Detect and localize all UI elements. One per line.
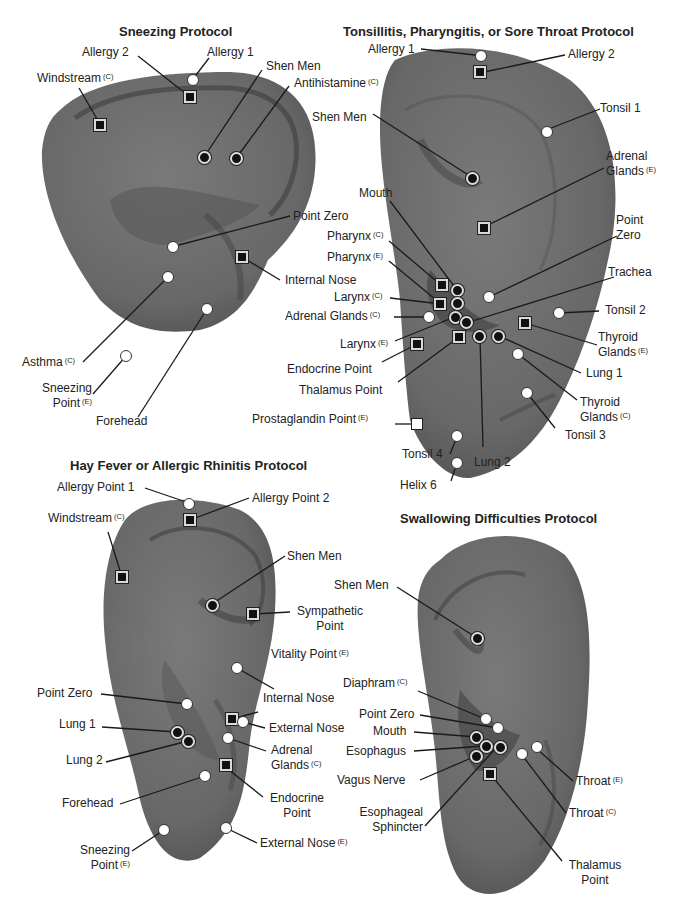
point-antihistamine[interactable]: [230, 152, 243, 165]
point-pharynx-e[interactable]: [451, 297, 464, 310]
point-allergy-1[interactable]: [187, 74, 199, 86]
point-adrenal-glands-c[interactable]: [423, 311, 435, 323]
point-esophagus[interactable]: [480, 740, 493, 753]
label-esophageal-sphincter: EsophagealSphincter: [343, 805, 423, 835]
point-allergy-2[interactable]: [474, 66, 486, 78]
label-prostaglandin-point: Prostaglandin Point(E): [252, 412, 368, 427]
point-thyroid-glands-c[interactable]: [512, 348, 524, 360]
point-lung-2[interactable]: [182, 735, 195, 748]
point-point-zero[interactable]: [181, 698, 193, 710]
label-throat-e: Throat(E): [576, 774, 623, 789]
point-lung-1[interactable]: [492, 330, 505, 343]
label-adrenal-glands-e: AdrenalGlands(E): [606, 149, 656, 179]
label-allergy-point-1: Allergy Point 1: [57, 480, 134, 495]
label-lung-1: Lung 1: [586, 366, 623, 381]
label-mouth: Mouth: [373, 724, 406, 739]
point-tonsil-1[interactable]: [541, 126, 553, 138]
label-forehead: Forehead: [96, 414, 147, 429]
label-asthma: Asthma(C): [22, 355, 75, 370]
point-external-nose[interactable]: [237, 716, 249, 728]
point-endocrine-point[interactable]: [220, 759, 232, 771]
label-shen-men: Shen Men: [312, 110, 367, 125]
point-larynx-c[interactable]: [434, 298, 446, 310]
label-vitality-point: Vitality Point(E): [271, 647, 349, 662]
point-allergy-1[interactable]: [475, 50, 487, 62]
point-vagus-nerve[interactable]: [470, 750, 483, 763]
point-allergy-2[interactable]: [184, 91, 196, 103]
label-forehead: Forehead: [62, 796, 113, 811]
point-windstream[interactable]: [116, 571, 128, 583]
label-allergy-point-2: Allergy Point 2: [252, 491, 329, 506]
label-diaphram: Diaphram(C): [343, 676, 407, 691]
point-thyroid-glands-e[interactable]: [519, 317, 531, 329]
label-antihistamine: Antihistamine(C): [294, 76, 378, 91]
point-windstream[interactable]: [94, 119, 106, 131]
point-vitality-point[interactable]: [231, 662, 243, 674]
label-trachea: Trachea: [608, 265, 652, 280]
label-tonsil-1: Tonsil 1: [600, 101, 641, 116]
label-thyroid-glands-e: ThyroidGlands(E): [598, 330, 648, 360]
label-internal-nose: Internal Nose: [263, 691, 334, 706]
point-forehead[interactable]: [199, 770, 211, 782]
protocol-title-swallowing: Swallowing Difficulties Protocol: [400, 511, 597, 526]
point-point-zero[interactable]: [167, 241, 179, 253]
label-thalamus-point: Thalamus Point: [299, 383, 382, 398]
point-endocrine-point[interactable]: [411, 338, 423, 350]
label-allergy-2: Allergy 2: [82, 45, 129, 60]
point-sympathetic-point[interactable]: [247, 608, 259, 620]
label-helix-6: Helix 6: [400, 478, 437, 493]
point-internal-nose[interactable]: [236, 251, 248, 263]
label-pharynx-e: Pharynx(E): [327, 250, 383, 265]
point-adrenal-glands-e[interactable]: [478, 222, 490, 234]
point-asthma[interactable]: [162, 271, 174, 283]
point-external-nose-e[interactable]: [220, 822, 232, 834]
point-thalamus-point[interactable]: [453, 331, 465, 343]
label-adrenal-glands: AdrenalGlands(C): [271, 743, 321, 773]
point-tonsil-3[interactable]: [521, 387, 533, 399]
label-sneezing-point: SneezingPoint(E): [36, 381, 92, 411]
point-pharynx-c[interactable]: [436, 279, 448, 291]
point-tonsil-2[interactable]: [553, 307, 565, 319]
label-windstream: Windstream(C): [37, 71, 113, 86]
label-thalamus-point: ThalamusPoint: [560, 858, 630, 888]
point-prostaglandin-point[interactable]: [411, 418, 423, 430]
point-allergy-point-1[interactable]: [183, 498, 195, 510]
point-point-zero[interactable]: [492, 722, 504, 734]
label-sympathetic-point: SympatheticPoint: [290, 604, 370, 634]
ear-sneezing: [42, 72, 316, 332]
label-lung-2: Lung 2: [66, 753, 103, 768]
point-shen-men[interactable]: [471, 632, 484, 645]
label-vagus-nerve: Vagus Nerve: [337, 773, 405, 788]
point-shen-men[interactable]: [198, 151, 211, 164]
label-allergy-1: Allergy 1: [368, 42, 415, 57]
label-endocrine-point: Endocrine Point: [287, 362, 372, 377]
point-mouth[interactable]: [451, 284, 464, 297]
label-thyroid-glands-c: ThyroidGlands(C): [580, 395, 630, 425]
point-throat-c[interactable]: [516, 748, 528, 760]
point-shen-men[interactable]: [206, 599, 219, 612]
label-external-nose-e: External Nose(E): [260, 836, 347, 851]
label-internal-nose: Internal Nose: [285, 273, 356, 288]
label-point-zero: PointZero: [616, 213, 643, 243]
point-lung-2[interactable]: [473, 330, 486, 343]
point-shen-men[interactable]: [466, 172, 479, 185]
point-diaphram[interactable]: [480, 713, 492, 725]
point-point-zero[interactable]: [483, 291, 495, 303]
point-thalamus-point[interactable]: [484, 768, 496, 780]
point-helix-6[interactable]: [451, 457, 463, 469]
point-throat-e[interactable]: [531, 741, 543, 753]
label-larynx-e: Larynx(E): [340, 337, 388, 352]
point-tonsil-4[interactable]: [451, 430, 463, 442]
point-allergy-point-2[interactable]: [184, 514, 196, 526]
point-forehead[interactable]: [201, 303, 213, 315]
point-adrenal-glands[interactable]: [222, 732, 234, 744]
label-shen-men: Shen Men: [334, 578, 389, 593]
label-esophagus: Esophagus: [346, 744, 406, 759]
point-trachea[interactable]: [460, 316, 473, 329]
point-sneezing-point[interactable]: [120, 350, 132, 362]
ear-acupuncture-protocols-diagram: Sneezing Protocol Tonsillitis, Pharyngit…: [0, 0, 683, 917]
point-sneezing-point[interactable]: [158, 824, 170, 836]
label-endocrine-point: EndocrinePoint: [262, 791, 332, 821]
point-esophageal-sphincter[interactable]: [494, 741, 507, 754]
label-point-zero: Point Zero: [293, 209, 348, 224]
